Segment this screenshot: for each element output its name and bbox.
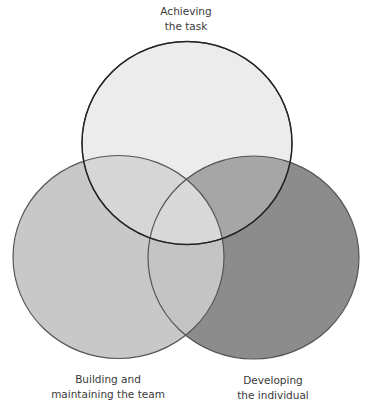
label-right-line2: the individual — [213, 388, 333, 403]
label-left-line2: maintaining the team — [28, 387, 188, 402]
venn-diagram: Achieving the task Building and maintain… — [0, 0, 368, 408]
label-developing-the-individual: Developing the individual — [213, 373, 333, 403]
label-left-line1: Building and — [28, 372, 188, 387]
label-building-the-team: Building and maintaining the team — [28, 372, 188, 402]
label-top-line2: the task — [126, 19, 246, 34]
venn-svg — [0, 0, 368, 408]
label-top-line1: Achieving — [126, 4, 246, 19]
label-achieving-the-task: Achieving the task — [126, 4, 246, 34]
label-right-line1: Developing — [213, 373, 333, 388]
